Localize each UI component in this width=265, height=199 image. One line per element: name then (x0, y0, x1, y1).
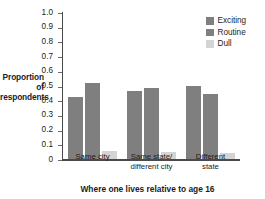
y-tick: 0.7 (58, 57, 62, 58)
y-tick-label: 0.1 (42, 140, 53, 149)
cropped-text-remnant (58, 0, 258, 3)
bar-routine-1 (85, 83, 101, 159)
bar-exciting-2 (127, 91, 143, 159)
y-tick-label: 0.7 (42, 52, 53, 61)
y-tick-label: 0 (48, 155, 53, 164)
y-tick-label: 0.6 (42, 66, 53, 75)
x-category-label-1: Same city (62, 152, 124, 162)
bar-routine-3 (203, 94, 219, 159)
x-category-label-2: Same state/ different city (121, 152, 183, 171)
legend-item-exciting[interactable]: Exciting (206, 15, 246, 27)
legend-item-routine[interactable]: Routine (206, 27, 246, 39)
legend-swatch-routine (206, 29, 214, 37)
y-tick: 0.2 (58, 131, 62, 132)
y-tick-label: 0.2 (42, 125, 53, 134)
y-tick-label: 1.0 (42, 8, 53, 17)
x-category-label-3: Different state (180, 152, 242, 171)
y-tick: 0.4 (58, 101, 62, 102)
x-axis-title: Where one lives relative to age 16 (40, 184, 255, 194)
y-tick-label: 0.4 (42, 96, 53, 105)
bar-chart-figure: Proportion of respondents 1.00.90.80.70.… (0, 0, 265, 199)
y-tick: 0.6 (58, 72, 62, 73)
legend-swatch-dull (206, 40, 214, 48)
y-axis-title-line-1: Proportion of (0, 72, 44, 92)
y-axis-title-line-2: respondents (0, 92, 44, 102)
legend-label-exciting: Exciting (218, 16, 247, 25)
y-tick-label: 0.8 (42, 37, 53, 46)
y-tick: 0.3 (58, 116, 62, 117)
y-tick: 0.1 (58, 145, 62, 146)
y-tick: 0.5 (58, 87, 62, 88)
legend-label-routine: Routine (218, 28, 246, 37)
legend-label-dull: Dull (218, 39, 232, 48)
y-tick: 1.0 (58, 13, 62, 14)
bar-exciting-1 (68, 97, 84, 159)
bar-exciting-3 (186, 86, 202, 160)
y-tick: 0.9 (58, 28, 62, 29)
y-axis-title: Proportion of respondents (0, 72, 44, 102)
y-tick: 0.8 (58, 42, 62, 43)
bar-routine-2 (144, 88, 160, 159)
y-tick-label: 0.5 (42, 81, 53, 90)
y-tick-label: 0.3 (42, 110, 53, 119)
legend-item-dull[interactable]: Dull (206, 38, 246, 50)
chart-legend: ExcitingRoutineDull (206, 15, 246, 50)
y-tick-label: 0.9 (42, 22, 53, 31)
legend-swatch-exciting (206, 17, 214, 25)
